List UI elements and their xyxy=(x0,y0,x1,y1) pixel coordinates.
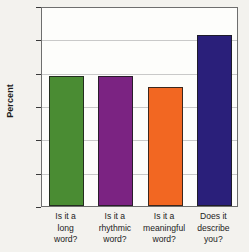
x-axis-category-label-line: you? xyxy=(189,234,238,246)
x-axis-category-label-line: Is it a xyxy=(140,211,189,223)
bar xyxy=(49,76,84,206)
y-axis-tick-mark xyxy=(36,207,41,208)
bar xyxy=(98,76,133,206)
x-axis-category-label-line: word? xyxy=(41,234,90,246)
x-axis-category-label: Is it ameaningfulword? xyxy=(140,211,189,246)
y-axis-title: Percent xyxy=(5,69,15,133)
x-axis-category-label: Is it alongword? xyxy=(41,211,90,246)
x-axis-category-label-line: Is it a xyxy=(90,211,139,223)
x-axis-category-label: Does itdescribeyou? xyxy=(189,211,238,246)
x-axis-category-label-line: word? xyxy=(90,234,139,246)
x-axis-category-label-line: word? xyxy=(140,234,189,246)
bar-chart-figure: Percent 051015202530 Is it alongword?Is … xyxy=(0,0,249,252)
plot-area xyxy=(41,7,238,207)
x-axis-category-label-line: long xyxy=(41,223,90,235)
bar xyxy=(197,35,232,206)
bar xyxy=(148,87,183,206)
x-axis-category-label-line: describe xyxy=(189,223,238,235)
x-axis-category-label-line: Does it xyxy=(189,211,238,223)
x-axis-category-label: Is it arhythmicword? xyxy=(90,211,139,246)
x-axis-category-label-line: Is it a xyxy=(41,211,90,223)
x-axis-category-label-line: rhythmic xyxy=(90,223,139,235)
x-axis-category-label-line: meaningful xyxy=(140,223,189,235)
